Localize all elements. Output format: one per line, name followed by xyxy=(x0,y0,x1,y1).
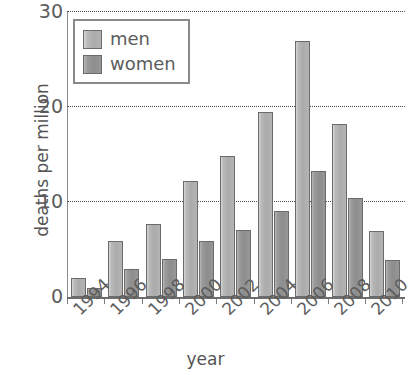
x-axis-label: year xyxy=(0,349,411,369)
x-tick-mark-1996 xyxy=(104,299,105,304)
x-tick-mark-2010 xyxy=(365,299,366,304)
x-tick-mark-2000 xyxy=(179,299,180,304)
bar-men-2008 xyxy=(332,124,347,297)
x-tick-mark-2008 xyxy=(328,299,329,304)
bar-men-2002 xyxy=(220,156,235,297)
legend-label-men: men xyxy=(110,30,150,48)
legend-label-women: women xyxy=(110,55,176,73)
bar-men-2000 xyxy=(183,181,198,297)
x-tick-mark-2004 xyxy=(254,299,255,304)
bar-group-2010 xyxy=(369,12,401,297)
bar-group-2002 xyxy=(220,12,252,297)
legend: men women xyxy=(73,19,190,84)
y-tick-label-0: 0 xyxy=(33,287,63,306)
legend-swatch-men xyxy=(83,30,102,49)
bar-group-2008 xyxy=(332,12,364,297)
bar-men-2004 xyxy=(258,112,273,297)
x-tick-mark-2002 xyxy=(216,299,217,304)
legend-item-men: men xyxy=(83,28,150,50)
x-tick-mark-2006 xyxy=(291,299,292,304)
x-tick-mark-end xyxy=(402,299,403,304)
bar-chart-figure: deaths per million 0102030 men women yea… xyxy=(0,0,411,375)
bar-group-2004 xyxy=(258,12,290,297)
x-tick-mark-1994 xyxy=(67,299,68,304)
legend-item-women: women xyxy=(83,53,176,75)
legend-swatch-women xyxy=(83,55,102,74)
y-tick-label-10: 10 xyxy=(33,192,63,211)
y-tick-label-20: 20 xyxy=(33,97,63,116)
x-tick-mark-1998 xyxy=(142,299,143,304)
bar-men-2006 xyxy=(295,41,310,298)
bar-group-2006 xyxy=(295,12,327,297)
y-tick-label-30: 30 xyxy=(33,2,63,21)
y-axis-ticks: 0102030 xyxy=(32,0,63,310)
